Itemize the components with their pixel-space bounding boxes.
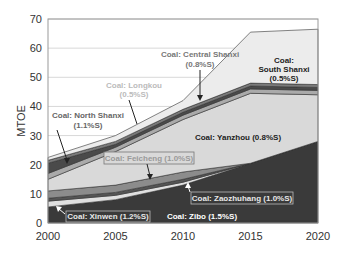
- label-longkou-sulfur: (0.5%S): [120, 90, 149, 99]
- label-central-shanxi: Coal: Central Shanxi: [161, 50, 239, 59]
- label-central-shanxi-sulfur: (0.8%S): [186, 60, 215, 69]
- label-yanzhou: Coal: Yanzhou (0.8%S): [195, 133, 281, 142]
- label-north-shanxi: Coal: North Shanxi: [52, 111, 124, 120]
- arrow-longkou: [129, 100, 137, 124]
- y-tick-label: 10: [30, 188, 42, 200]
- x-tick-label: 2005: [103, 230, 127, 242]
- label-south-shanxi-name: South Shanxi: [258, 65, 309, 74]
- label-xinwen: Coal: Xinwen (1.2%S): [67, 212, 149, 221]
- y-tick-label: 0: [36, 217, 42, 229]
- y-axis-ticks: 010203040506070: [30, 13, 42, 229]
- label-longkou: Coal: Longkou: [106, 81, 162, 90]
- y-tick-label: 60: [30, 42, 42, 54]
- y-tick-label: 40: [30, 100, 42, 112]
- label-south-shanxi: Coal:: [274, 56, 294, 65]
- label-zaozhuhang: Coal: Zaozhuhang (1.0%S): [192, 194, 293, 203]
- label-feicheng: Coal: Feicheng (1.0%S): [105, 154, 194, 163]
- y-tick-label: 70: [30, 13, 42, 25]
- label-zibo: Coal: Zibo (1.5%S): [167, 212, 238, 221]
- x-axis-ticks: 20002005201020152020: [36, 230, 330, 242]
- x-tick-label: 2015: [238, 230, 262, 242]
- x-tick-label: 2000: [36, 230, 60, 242]
- stacked-area-chart: 010203040506070 20002005201020152020 MTO…: [0, 0, 345, 257]
- y-tick-label: 50: [30, 71, 42, 83]
- y-tick-label: 30: [30, 130, 42, 142]
- label-north-shanxi-sulfur: (1.1%S): [74, 121, 103, 130]
- label-south-shanxi-sulfur: (0.5%S): [270, 74, 299, 83]
- y-axis-label: MTOE: [15, 105, 27, 137]
- y-tick-label: 20: [30, 159, 42, 171]
- x-tick-label: 2010: [171, 230, 195, 242]
- x-tick-label: 2020: [306, 230, 330, 242]
